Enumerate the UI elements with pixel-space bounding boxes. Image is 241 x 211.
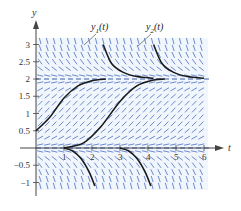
field-background (36, 38, 208, 190)
x-tick-label: 1 (62, 152, 67, 162)
x-tick-label: 6 (202, 152, 207, 162)
y-axis-label: y (31, 7, 37, 18)
y-tick-label: 1 (26, 109, 31, 119)
y-tick-label: −1 (20, 178, 30, 188)
y2-paren: (t) (154, 21, 164, 33)
y-tick-label: 0.5 (19, 126, 31, 136)
t-axis-arrow-icon (215, 145, 224, 151)
y-axis-arrow-icon (33, 20, 39, 29)
x-tick-label: 2 (90, 152, 95, 162)
y-tick-label: 2.5 (19, 57, 31, 67)
svg-text:y1(t): y1(t) (90, 21, 109, 35)
slope-field-chart: y t 123456−1−0.50.511.522.53 y1(t) y2(t) (0, 0, 241, 211)
x-tick-label: 5 (174, 152, 179, 162)
y-tick-label: 2 (26, 74, 31, 84)
y1-paren: (t) (99, 21, 109, 33)
x-tick-label: 4 (146, 152, 151, 162)
svg-text:y2(t): y2(t) (145, 21, 164, 35)
t-axis-label: t (228, 142, 231, 153)
y-tick-label: 3 (26, 40, 31, 50)
x-tick-label: 3 (118, 152, 123, 162)
y-tick-label: −0.5 (14, 160, 31, 170)
y-tick-label: 1.5 (19, 91, 31, 101)
